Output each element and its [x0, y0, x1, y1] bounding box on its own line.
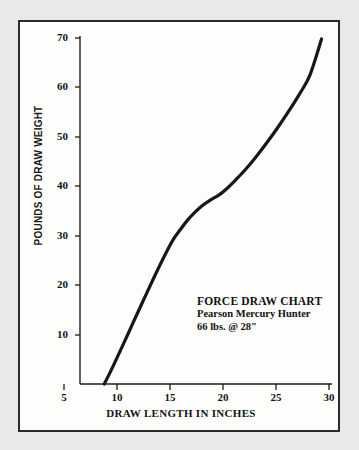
y-tick-label-70: 70	[42, 31, 68, 43]
annotation-title: FORCE DRAW CHART	[197, 294, 322, 308]
y-tick-label-60: 60	[42, 80, 68, 92]
x-tick-label-30: 30	[316, 391, 342, 403]
force-draw-curve-plot	[20, 22, 342, 434]
x-tick-label-20: 20	[210, 391, 236, 403]
x-axis-title: DRAW LENGTH IN INCHES	[20, 407, 342, 419]
y-tick-marks	[75, 38, 80, 335]
annotation-spec: 66 lbs. @ 28"	[197, 321, 322, 334]
y-tick-label-50: 50	[42, 130, 68, 142]
x-tick-label-15: 15	[157, 391, 183, 403]
chart-page: POUNDS OF DRAW WEIGHT DRAW LENGTH IN INC…	[0, 0, 359, 450]
force-draw-chart-card: POUNDS OF DRAW WEIGHT DRAW LENGTH IN INC…	[18, 20, 340, 432]
annotation-model: Pearson Mercury Hunter	[197, 308, 322, 321]
y-tick-label-40: 40	[42, 179, 68, 191]
y-tick-label-30: 30	[42, 229, 68, 241]
y-tick-label-10: 10	[42, 328, 68, 340]
y-tick-label-20: 20	[42, 278, 68, 290]
plot-area: POUNDS OF DRAW WEIGHT DRAW LENGTH IN INC…	[20, 22, 342, 434]
x-tick-label-5: 5	[51, 391, 77, 403]
x-tick-label-10: 10	[104, 391, 130, 403]
y-axis-title: POUNDS OF DRAW WEIGHT	[33, 76, 44, 276]
x-tick-label-25: 25	[263, 391, 289, 403]
chart-annotation: FORCE DRAW CHART Pearson Mercury Hunter …	[197, 294, 322, 334]
